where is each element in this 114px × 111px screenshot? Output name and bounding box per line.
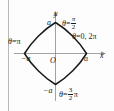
equals-sign-bottom: =: [63, 90, 68, 99]
x-negative-tick-label: −a: [21, 55, 30, 63]
theta-label-zero-two-pi: θ=0, 2π: [72, 33, 97, 41]
y-negative-tick-label: −a: [43, 87, 52, 95]
x-axis-label: x: [100, 52, 104, 60]
theta-label-three-halves-pi: θ=32π: [59, 87, 78, 102]
fraction-pi-over-2: π2: [71, 16, 77, 31]
astroid-polar-figure: y x a −a −a a O θ=π2 θ=0, 2π θ=π θ=32π: [0, 0, 114, 111]
fraction-denominator-bottom: 2: [68, 95, 74, 102]
theta-value-right: 0, 2π: [80, 32, 96, 41]
theta-label-pi: θ=π: [8, 38, 21, 46]
theta-value-left: π: [16, 37, 20, 46]
y-axis-label: y: [54, 10, 58, 18]
x-positive-tick-label: a: [84, 55, 88, 63]
theta-label-half-pi: θ=π2: [62, 16, 77, 31]
fraction-denominator-top: 2: [71, 24, 77, 31]
y-positive-tick-label: a: [47, 19, 51, 27]
fraction-three-over-2: 32: [68, 87, 74, 102]
equals-sign-top: =: [66, 19, 71, 28]
pi-symbol-bottom: π: [74, 90, 78, 99]
fraction-numerator-bottom: 3: [68, 87, 74, 94]
fraction-numerator-top: π: [71, 16, 77, 23]
origin-label: O: [50, 57, 56, 65]
